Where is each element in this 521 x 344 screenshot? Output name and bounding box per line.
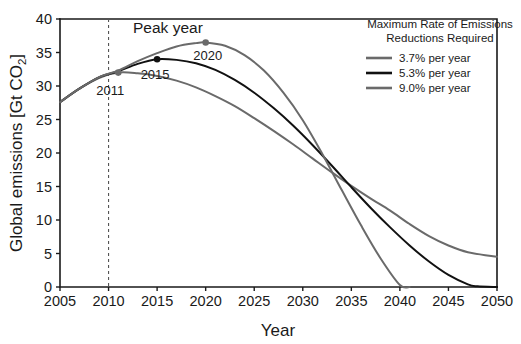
- legend-label-1: 3.7% per year: [399, 52, 471, 64]
- y-tick-label: 40: [36, 11, 52, 27]
- x-tick-label: 2015: [141, 293, 173, 309]
- y-tick-label: 30: [36, 78, 52, 94]
- y-tick-label: 0: [44, 279, 52, 295]
- peak-label-2015: 2015: [141, 67, 170, 82]
- y-tick-label: 10: [36, 212, 52, 228]
- y-tick-label: 25: [36, 112, 52, 128]
- y-tick-label: 35: [36, 45, 52, 61]
- chart-container: 201120152020 200520102015202020252030203…: [0, 0, 521, 344]
- y-tick-label: 20: [36, 145, 52, 161]
- x-tick-label: 2035: [335, 293, 367, 309]
- legend-title-line-2: Reductions Required: [386, 32, 493, 44]
- x-axis-title: Year: [261, 321, 296, 340]
- x-tick-label: 2050: [481, 293, 513, 309]
- x-tick-label: 2005: [44, 293, 76, 309]
- x-tick-label: 2025: [238, 293, 270, 309]
- x-tick-label: 2030: [287, 293, 319, 309]
- x-tick-label: 2010: [92, 293, 124, 309]
- y-tick-label: 5: [44, 246, 52, 262]
- y-axis-title: Global emissions [Gt CO2]: [7, 54, 28, 252]
- x-tick-label: 2020: [190, 293, 222, 309]
- legend-label-2: 5.3% per year: [399, 67, 471, 79]
- x-tick-label: 2040: [384, 293, 416, 309]
- peak-marker-2020: [202, 39, 209, 46]
- peak-marker-2015: [154, 56, 161, 63]
- peak-label-2020: 2020: [193, 48, 222, 63]
- emissions-line-chart: 201120152020 200520102015202020252030203…: [0, 0, 521, 344]
- y-tick-label: 15: [36, 179, 52, 195]
- peak-marker-2011: [115, 69, 122, 76]
- legend-title-line-1: Maximum Rate of Emissions: [367, 18, 513, 30]
- y-axis-title-main: Global emissions [Gt CO: [7, 65, 26, 252]
- svg-text:Global emissions [Gt CO2]: Global emissions [Gt CO2]: [7, 54, 28, 252]
- y-axis-title-tail: ]: [7, 54, 26, 59]
- x-tick-label: 2045: [432, 293, 464, 309]
- peak-label-2011: 2011: [96, 83, 124, 98]
- peak-year-annotation: Peak year: [133, 19, 203, 36]
- legend-entries: 3.7% per year5.3% per year9.0% per year: [366, 52, 471, 94]
- legend-label-3: 9.0% per year: [399, 82, 471, 94]
